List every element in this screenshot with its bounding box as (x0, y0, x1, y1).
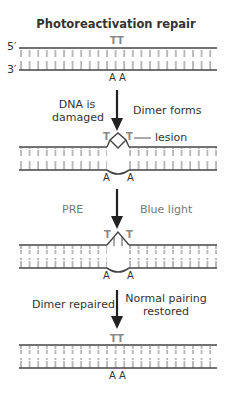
base-a-right: A (127, 172, 134, 183)
base-a-left: A (103, 172, 110, 183)
base-a-right: A (127, 270, 134, 281)
base-t-left: T (103, 131, 110, 142)
step-label-right: Blue light (140, 203, 192, 216)
base-a-left: A (103, 270, 110, 281)
base-tt: TT (110, 333, 124, 344)
five-prime-label: 5′ (7, 40, 17, 53)
dna-duplex-repaired (19, 345, 217, 368)
step-label-left: DNA isdamaged (52, 98, 102, 124)
lesion-label: lesion (155, 131, 187, 144)
base-aa: A A (109, 370, 126, 381)
dna-duplex-pre-bound (19, 232, 217, 272)
base-t-left: T (104, 229, 111, 240)
base-t-right: T (126, 131, 133, 142)
arrow-down-icon (111, 189, 123, 229)
base-t-right: T (126, 229, 133, 240)
arrow-down-icon (111, 90, 123, 131)
base-aa: A A (109, 72, 126, 83)
step-label-left: PRE (62, 203, 83, 216)
base-tt: TT (110, 35, 124, 46)
step-label-right: Normal pairingrestored (125, 292, 207, 318)
three-prime-label: 3′ (7, 63, 17, 76)
step-label-left: Dimer repaired (32, 298, 115, 311)
dna-duplex-normal (19, 48, 217, 70)
step-label-right: Dimer forms (133, 104, 201, 117)
